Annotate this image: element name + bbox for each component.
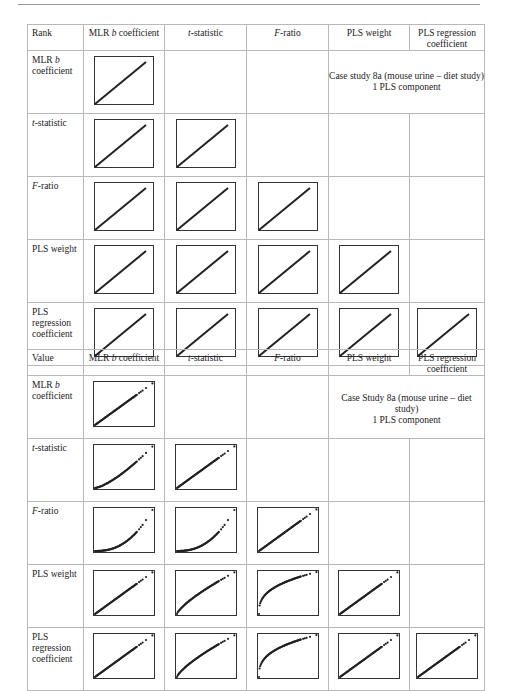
empty-cell <box>165 51 247 114</box>
value-scatter-plot <box>257 507 319 553</box>
empty-cell <box>329 177 410 240</box>
page-top-rule <box>18 4 480 5</box>
table-row: PLS weight <box>28 565 485 628</box>
scatter-plot-cell <box>247 240 329 303</box>
scatter-plot-cell <box>247 565 329 628</box>
scatter-plot-cell <box>165 565 247 628</box>
empty-cell <box>410 565 485 628</box>
row-label: t-statistic <box>28 439 84 502</box>
table-row: MLR b coefficientCase Study 8a (mouse ur… <box>28 376 485 439</box>
scatter-plot-cell <box>84 628 165 691</box>
scatter-plot-cell <box>329 565 410 628</box>
empty-cell <box>410 240 485 303</box>
table-row: PLS regression coefficient <box>28 628 485 691</box>
rank-line-plot <box>176 182 236 231</box>
table-row: t-statistic <box>28 439 485 502</box>
scatter-plot-cell <box>165 502 247 565</box>
scatter-plot-cell <box>410 628 485 691</box>
annotation-line-2: 1 PLS component <box>329 82 484 93</box>
empty-cell <box>329 502 410 565</box>
scatter-plot-cell <box>84 565 165 628</box>
value-scatter-plot <box>257 570 319 616</box>
scatter-plot-cell <box>84 376 165 439</box>
empty-cell <box>165 376 247 439</box>
table-row: t-statistic <box>28 114 485 177</box>
rank-line-plot <box>94 245 154 294</box>
rank-line-plot <box>339 245 399 294</box>
rank-line-plot <box>94 119 154 168</box>
value-scatter-plot <box>338 570 400 616</box>
rank-line-plot <box>176 245 236 294</box>
rank-line-plot <box>94 182 154 231</box>
scatter-plot-cell <box>84 114 165 177</box>
scatter-plot-cell <box>84 240 165 303</box>
table-row: F-ratio <box>28 177 485 240</box>
col-header-t-statistic: t-statistic <box>165 350 247 376</box>
empty-cell <box>247 114 329 177</box>
corner-label: Rank <box>28 25 84 51</box>
annotation-line-1: Case Study 8a (mouse urine – diet study) <box>329 393 484 415</box>
rank-line-plot <box>176 119 236 168</box>
table-row: PLS weight <box>28 240 485 303</box>
scatter-plot-cell <box>84 439 165 502</box>
scatter-plot-cell <box>165 114 247 177</box>
rank-line-plot <box>258 245 318 294</box>
scatter-plot-cell <box>165 240 247 303</box>
case-study-annotation: Case Study 8a (mouse urine – diet study)… <box>329 376 485 439</box>
annotation-line-2: 1 PLS component <box>329 415 484 426</box>
col-header-mlr-b: MLR b coefficient <box>84 350 165 376</box>
row-label: PLS weight <box>28 240 84 303</box>
value-scatter-plot <box>416 633 478 679</box>
scatter-plot-cell <box>329 628 410 691</box>
value-scatter-plot <box>257 633 319 679</box>
value-scatter-plot <box>175 570 237 616</box>
value-scatter-plot <box>93 507 155 553</box>
empty-cell <box>410 177 485 240</box>
header-row: Value MLR b coefficient t-statistic F-ra… <box>28 350 485 376</box>
col-header-pls-regression: PLS regression coefficient <box>410 350 485 376</box>
case-study-annotation: Case study 8a (mouse urine – diet study)… <box>329 51 485 114</box>
rank-line-plot <box>94 56 154 105</box>
empty-cell <box>329 439 410 502</box>
scatter-plot-cell <box>329 240 410 303</box>
scatter-plot-cell <box>247 628 329 691</box>
row-label: PLS regression coefficient <box>28 628 84 691</box>
value-scatter-plot <box>175 507 237 553</box>
row-label: F-ratio <box>28 502 84 565</box>
row-label: F-ratio <box>28 177 84 240</box>
col-header-f-ratio: F-ratio <box>247 350 329 376</box>
col-header-t-statistic: t-statistic <box>165 25 247 51</box>
empty-cell <box>247 439 329 502</box>
table-row: MLR b coefficientCase study 8a (mouse ur… <box>28 51 485 114</box>
empty-cell <box>329 114 410 177</box>
scatter-plot-cell <box>84 177 165 240</box>
scatter-plot-cell <box>84 502 165 565</box>
empty-cell <box>410 502 485 565</box>
value-scatter-plot <box>93 633 155 679</box>
row-label: PLS weight <box>28 565 84 628</box>
col-header-pls-weight: PLS weight <box>329 25 410 51</box>
rank-line-plot <box>258 182 318 231</box>
col-header-f-ratio: F-ratio <box>247 25 329 51</box>
annotation-line-1: Case study 8a (mouse urine – diet study) <box>329 71 484 82</box>
empty-cell <box>247 51 329 114</box>
corner-label: Value <box>28 350 84 376</box>
col-header-pls-weight: PLS weight <box>329 350 410 376</box>
value-scatter-plot <box>93 444 155 490</box>
scatter-plot-cell <box>165 439 247 502</box>
value-scatter-plot <box>93 381 155 427</box>
table-row: F-ratio <box>28 502 485 565</box>
row-label: t-statistic <box>28 114 84 177</box>
value-scatter-plot <box>175 444 237 490</box>
value-scatter-plot <box>338 633 400 679</box>
scatter-plot-cell <box>165 628 247 691</box>
header-row: Rank MLR b coefficient t-statistic F-rat… <box>28 25 485 51</box>
scatter-plot-cell <box>247 502 329 565</box>
col-header-mlr-b: MLR b coefficient <box>84 25 165 51</box>
scatter-plot-cell <box>84 51 165 114</box>
row-label: MLR b coefficient <box>28 51 84 114</box>
empty-cell <box>247 376 329 439</box>
rank-comparison-table: Rank MLR b coefficient t-statistic F-rat… <box>27 24 485 366</box>
row-label: MLR b coefficient <box>28 376 84 439</box>
scatter-plot-cell <box>247 177 329 240</box>
